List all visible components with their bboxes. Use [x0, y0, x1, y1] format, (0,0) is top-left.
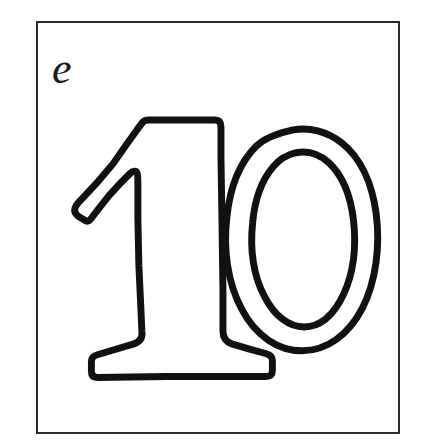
scanned-page: e [0, 0, 427, 447]
numeral-ten-drawing [38, 23, 398, 432]
figure-area: e [38, 23, 398, 432]
illustration-border: e [36, 21, 400, 434]
digit-zero [226, 129, 378, 351]
